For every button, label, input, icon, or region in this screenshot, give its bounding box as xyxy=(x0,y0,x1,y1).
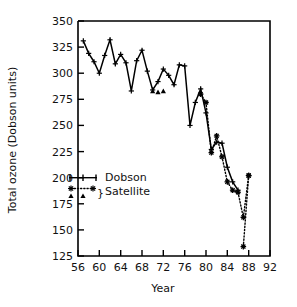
legend-asterisk-right xyxy=(90,186,96,192)
legend-asterisk-left xyxy=(68,186,74,192)
x-axis-title: Year xyxy=(150,282,175,295)
legend-dobson-label: Dobson xyxy=(105,171,147,184)
x-tick-label: 64 xyxy=(114,261,128,274)
x-tick-label: 76 xyxy=(178,261,192,274)
y-tick-label: 125 xyxy=(52,250,73,263)
x-tick-label: 60 xyxy=(92,261,106,274)
chart-canvas: 350 325 300 275 250 225 200 175 150 125 … xyxy=(0,0,297,307)
y-tick-label: 175 xyxy=(52,198,73,211)
y-tick-label: 275 xyxy=(52,93,73,106)
y-tick-label: 250 xyxy=(52,119,73,132)
x-tick-label: 68 xyxy=(135,261,149,274)
x-tick-label: 88 xyxy=(242,261,256,274)
x-tick-label: 80 xyxy=(199,261,213,274)
legend-brace: } xyxy=(97,187,104,200)
y-tick-label: 150 xyxy=(52,224,73,237)
y-tick-label: 325 xyxy=(52,41,73,54)
y-tick-label: 350 xyxy=(52,15,73,28)
legend-satellite-label: Satellite xyxy=(105,185,150,198)
y-tick-label: 300 xyxy=(52,67,73,80)
x-tick-label: 56 xyxy=(71,261,85,274)
x-tick-label: 72 xyxy=(156,261,170,274)
y-tick-label: 225 xyxy=(52,146,73,159)
ozone-chart-figure: 350 325 300 275 250 225 200 175 150 125 … xyxy=(0,0,297,307)
x-tick-label: 92 xyxy=(263,261,277,274)
y-axis-title: Total ozone (Dobson units) xyxy=(6,67,19,214)
x-tick-label: 84 xyxy=(220,261,234,274)
